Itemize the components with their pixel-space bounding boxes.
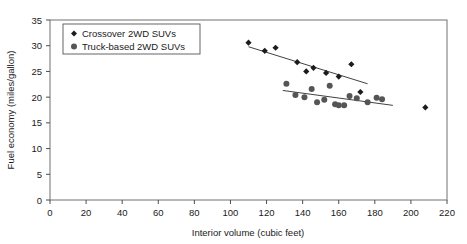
data-point-circle [321, 97, 327, 103]
legend-entry-label: Truck-based 2WD SUVs [82, 41, 185, 52]
x-tick-label: 220 [439, 207, 455, 218]
x-tick-label: 40 [117, 207, 128, 218]
y-axis-tick-labels: 05101520253035 [31, 15, 42, 206]
y-axis-title: Fuel economy (miles/gallon) [5, 51, 16, 170]
data-point-circle [283, 81, 289, 87]
chart-legend: Crossover 2WD SUVsTruck-based 2WD SUVs [63, 24, 200, 54]
x-tick-label: 180 [367, 207, 383, 218]
x-tick-label: 200 [403, 207, 419, 218]
data-point-diamond [357, 89, 363, 95]
y-tick-label: 0 [37, 195, 42, 206]
data-point-diamond [272, 45, 278, 51]
data-points [245, 40, 428, 111]
x-tick-label: 120 [259, 207, 275, 218]
chart-canvas: 020406080100120140160180200220 051015202… [0, 0, 467, 244]
x-tick-label: 160 [331, 207, 347, 218]
data-point-circle [314, 99, 320, 105]
y-tick-label: 35 [31, 15, 42, 26]
y-tick-label: 15 [31, 117, 42, 128]
data-point-circle [365, 99, 371, 105]
data-point-diamond [262, 48, 268, 54]
data-point-diamond [245, 40, 251, 46]
x-axis-tick-labels: 020406080100120140160180200220 [47, 207, 455, 218]
data-point-circle [347, 93, 353, 99]
data-point-diamond [348, 61, 354, 67]
data-point-diamond [310, 65, 316, 71]
x-tick-label: 60 [153, 207, 164, 218]
data-point-diamond [303, 68, 309, 74]
legend-entry-label: Crossover 2WD SUVs [82, 28, 176, 39]
y-tick-label: 10 [31, 143, 42, 154]
data-point-circle [301, 94, 307, 100]
data-point-circle [327, 83, 333, 89]
data-point-diamond [323, 70, 329, 76]
y-tick-label: 30 [31, 40, 42, 51]
x-tick-label: 0 [47, 207, 52, 218]
data-point-circle [336, 102, 342, 108]
x-tick-label: 100 [223, 207, 239, 218]
data-point-diamond [422, 104, 428, 110]
y-tick-label: 20 [31, 92, 42, 103]
circle-marker-icon [71, 44, 77, 50]
x-tick-label: 20 [81, 207, 92, 218]
y-tick-label: 25 [31, 66, 42, 77]
x-axis-title: Interior volume (cubic feet) [192, 227, 304, 238]
scatter-chart: 020406080100120140160180200220 051015202… [0, 0, 467, 244]
x-tick-label: 80 [189, 207, 200, 218]
data-point-circle [379, 96, 385, 102]
data-point-circle [341, 102, 347, 108]
x-tick-label: 140 [295, 207, 311, 218]
data-point-circle [374, 95, 380, 101]
trend-lines [249, 47, 393, 106]
data-point-circle [292, 92, 298, 98]
y-tick-label: 5 [37, 169, 42, 180]
data-point-diamond [294, 59, 300, 65]
data-point-circle [354, 95, 360, 101]
data-point-circle [309, 86, 315, 92]
